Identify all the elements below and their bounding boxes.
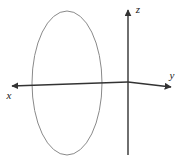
y-axis-label: y (169, 69, 175, 81)
coordinate-axes-diagram: x y z (0, 0, 182, 161)
x-axis-line (12, 82, 128, 86)
z-axis-label: z (135, 3, 141, 15)
x-axis-label: x (6, 89, 12, 101)
y-axis-line (128, 82, 171, 87)
figure-container: x y z (0, 0, 182, 161)
